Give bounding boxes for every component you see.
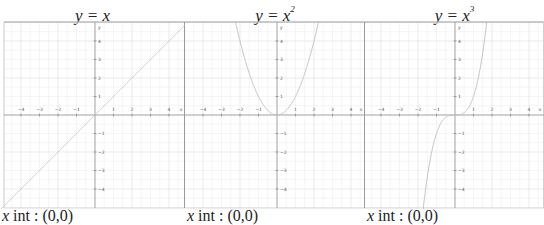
- x-intercept-caption: x int : (0,0): [187, 207, 258, 225]
- svg-text:−1: −1: [458, 131, 465, 136]
- svg-text:y: y: [458, 25, 461, 30]
- svg-text:−4: −4: [458, 187, 465, 192]
- svg-text:1: 1: [280, 94, 283, 99]
- svg-text:4: 4: [458, 39, 461, 44]
- panel-linear: y = x −4−3−2−11234−4−3−2−11234xy x int :…: [0, 0, 185, 225]
- svg-text:4: 4: [280, 39, 283, 44]
- svg-text:2: 2: [313, 107, 316, 112]
- svg-text:−2: −2: [237, 107, 244, 112]
- panel-quadratic: y = x2 −4−3−2−11234−4−3−2−11234xy x int …: [185, 0, 365, 225]
- svg-text:−4: −4: [280, 187, 287, 192]
- svg-text:x: x: [180, 107, 183, 112]
- svg-text:1: 1: [458, 94, 461, 99]
- svg-text:2: 2: [280, 76, 283, 81]
- svg-text:2: 2: [131, 107, 134, 112]
- svg-text:−3: −3: [458, 168, 465, 173]
- svg-text:1: 1: [472, 107, 475, 112]
- svg-text:3: 3: [149, 107, 152, 112]
- svg-text:−4: −4: [98, 187, 105, 192]
- svg-text:x: x: [539, 107, 542, 112]
- svg-text:3: 3: [509, 107, 512, 112]
- svg-text:−1: −1: [73, 107, 80, 112]
- svg-text:y: y: [98, 25, 101, 30]
- svg-text:−1: −1: [433, 107, 440, 112]
- x-intercept-caption: x int : (0,0): [367, 207, 438, 225]
- plot-area: −4−3−2−11234−4−3−2−11234xy: [185, 21, 365, 209]
- svg-text:−4: −4: [378, 107, 385, 112]
- svg-text:2: 2: [491, 107, 494, 112]
- x-intercept-caption: x int : (0,0): [2, 207, 73, 225]
- svg-text:−3: −3: [396, 107, 403, 112]
- svg-text:−3: −3: [36, 107, 43, 112]
- svg-text:3: 3: [280, 57, 283, 62]
- svg-text:4: 4: [528, 107, 531, 112]
- svg-text:−1: −1: [255, 107, 262, 112]
- svg-text:y: y: [280, 25, 283, 30]
- svg-text:−4: −4: [200, 107, 207, 112]
- svg-text:3: 3: [98, 57, 101, 62]
- svg-text:3: 3: [458, 57, 461, 62]
- svg-text:x: x: [360, 107, 363, 112]
- plot-area: −4−3−2−11234−4−3−2−11234xy: [365, 21, 544, 209]
- svg-text:4: 4: [350, 107, 353, 112]
- svg-text:4: 4: [98, 39, 101, 44]
- svg-text:1: 1: [98, 94, 101, 99]
- svg-text:2: 2: [458, 76, 461, 81]
- plot-area: −4−3−2−11234−4−3−2−11234xy: [0, 21, 185, 209]
- svg-text:−2: −2: [415, 107, 422, 112]
- svg-text:−1: −1: [98, 131, 105, 136]
- svg-text:−3: −3: [98, 168, 105, 173]
- svg-text:−2: −2: [280, 150, 287, 155]
- svg-text:−2: −2: [98, 150, 105, 155]
- svg-text:4: 4: [168, 107, 171, 112]
- svg-text:−2: −2: [55, 107, 62, 112]
- svg-text:2: 2: [98, 76, 101, 81]
- svg-text:−3: −3: [218, 107, 225, 112]
- svg-text:−3: −3: [280, 168, 287, 173]
- svg-text:−1: −1: [280, 131, 287, 136]
- panel-cubic: y = x3 −4−3−2−11234−4−3−2−11234xy x int …: [365, 0, 544, 225]
- svg-text:−4: −4: [18, 107, 25, 112]
- svg-text:1: 1: [112, 107, 115, 112]
- svg-text:1: 1: [294, 107, 297, 112]
- svg-text:−2: −2: [458, 150, 465, 155]
- svg-text:3: 3: [331, 107, 334, 112]
